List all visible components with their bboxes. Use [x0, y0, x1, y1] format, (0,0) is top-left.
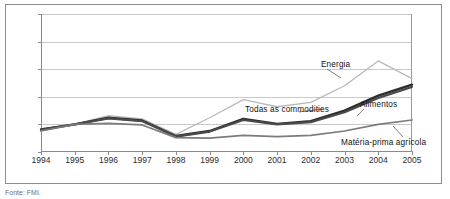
x-tick-label-1997: 1997 — [133, 155, 152, 165]
series-label-energia: Energia — [321, 60, 350, 69]
series-label-todas-as-commodities: Todas as commodities — [245, 105, 329, 114]
x-tick-label-1996: 1996 — [99, 155, 118, 165]
x-tick-label-2000: 2000 — [234, 155, 253, 165]
source-caption: Fonte: FMI. — [5, 189, 205, 199]
x-tick-label-2003: 2003 — [335, 155, 354, 165]
x-tick-mark-2005 — [412, 151, 413, 155]
x-tick-label-1994: 1994 — [32, 155, 51, 165]
x-tick-label-1995: 1995 — [65, 155, 84, 165]
leader-line — [393, 126, 403, 137]
x-tick-label-2001: 2001 — [268, 155, 287, 165]
x-tick-label-1999: 1999 — [200, 155, 219, 165]
x-tick-label-2002: 2002 — [301, 155, 320, 165]
x-tick-label-2005: 2005 — [403, 155, 422, 165]
leader-line — [357, 109, 364, 116]
plot-area: 50100150200250300 1994199519961997199819… — [41, 14, 412, 152]
x-tick-label-1998: 1998 — [166, 155, 185, 165]
leader-line — [327, 69, 341, 78]
annotation-leader-lines — [41, 14, 412, 152]
series-label-alimentos: Alimentos — [360, 100, 397, 109]
figure-container: 50100150200250300 1994199519961997199819… — [0, 0, 450, 199]
x-tick-label-2004: 2004 — [369, 155, 388, 165]
series-label-materia-prima-agricola: Matéria-prima agrícola — [341, 138, 426, 147]
